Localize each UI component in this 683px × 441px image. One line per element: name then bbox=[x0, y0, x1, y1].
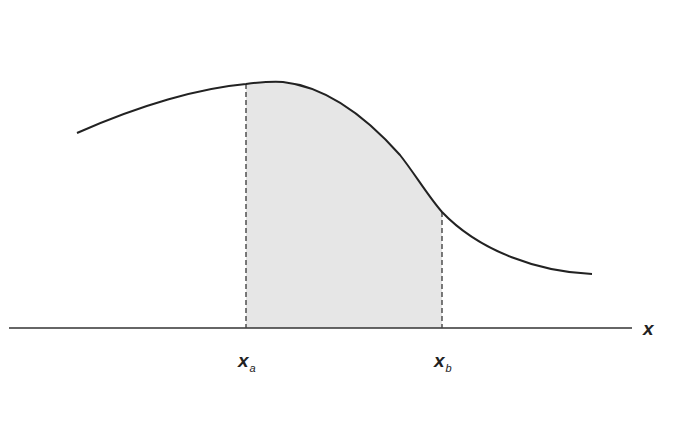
integral-diagram bbox=[0, 0, 683, 441]
x-axis-label-text: x bbox=[643, 318, 654, 339]
lower-bound-symbol: x bbox=[238, 350, 249, 371]
x-axis-label: x bbox=[643, 318, 654, 340]
upper-bound-label: xb bbox=[434, 350, 452, 372]
lower-bound-label: xa bbox=[238, 350, 256, 372]
lower-bound-subscript: a bbox=[250, 362, 256, 374]
upper-bound-symbol: x bbox=[434, 350, 445, 371]
upper-bound-subscript: b bbox=[446, 362, 452, 374]
shaded-area bbox=[246, 82, 442, 328]
